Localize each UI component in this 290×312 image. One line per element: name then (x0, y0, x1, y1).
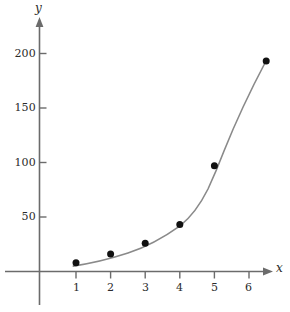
chart-canvas (0, 0, 290, 312)
y-tick-label-50: 50 (4, 210, 36, 223)
fit-curve (73, 61, 266, 266)
x-tick-label-5: 5 (208, 281, 221, 294)
x-tick-label-2: 2 (104, 281, 117, 294)
data-point (263, 58, 270, 65)
x-tick-label-6: 6 (242, 281, 255, 294)
data-point (142, 240, 149, 247)
x-axis-ticks (76, 272, 249, 279)
y-tick-label-100: 100 (4, 156, 36, 169)
data-point (73, 259, 80, 266)
x-axis-arrowhead (263, 268, 273, 276)
data-point (176, 221, 183, 228)
y-tick-label-150: 150 (4, 101, 36, 114)
data-point (211, 162, 218, 169)
x-axis-label: x (276, 261, 283, 275)
x-tick-label-4: 4 (173, 281, 186, 294)
y-tick-label-200: 200 (4, 47, 36, 60)
data-points (73, 58, 270, 267)
x-tick-label-1: 1 (70, 281, 83, 294)
y-axis-ticks (40, 54, 47, 218)
y-axis-label: y (35, 1, 42, 15)
data-point (107, 251, 114, 258)
y-axis-arrowhead (36, 17, 44, 27)
x-tick-label-3: 3 (139, 281, 152, 294)
chart-figure: 200 150 100 50 1 2 3 4 5 6 y x (0, 0, 290, 312)
